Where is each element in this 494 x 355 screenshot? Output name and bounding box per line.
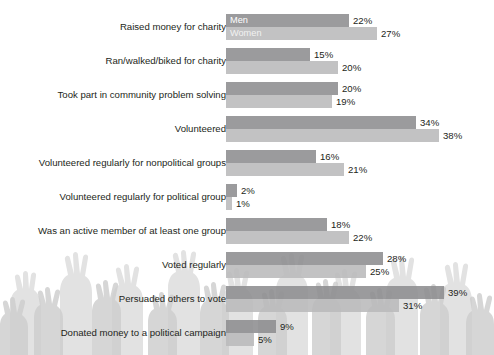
bar-women[interactable] <box>226 265 366 278</box>
bar-group-women: 21% <box>226 163 494 176</box>
bar-group-women: 20% <box>226 61 494 74</box>
value-label-men: 28% <box>383 252 406 265</box>
category-label: Persuaded others to vote <box>4 293 226 304</box>
category-label: Took part in community problem solving <box>4 89 226 100</box>
bar-group-men: Men 22% <box>226 14 494 27</box>
chart-rows: Raised money for charity Men 22% Women 2… <box>0 0 494 355</box>
value-label-women: 20% <box>338 61 361 74</box>
bar-group-women: 1% <box>226 197 494 210</box>
bar-women[interactable] <box>226 95 332 108</box>
value-label-women: 19% <box>332 95 355 108</box>
value-label-men: 22% <box>349 14 372 27</box>
value-label-women: 5% <box>254 333 272 346</box>
bar-group-men: 28% <box>226 252 494 265</box>
grouped-bar-chart: Raised money for charity Men 22% Women 2… <box>0 0 494 355</box>
category-label: Donated money to a political campaign <box>4 327 226 338</box>
bar-group-women: Women 27% <box>226 27 494 40</box>
value-label-men: 20% <box>338 82 361 95</box>
category-label: Volunteered <box>4 123 226 134</box>
bar-group-women: 25% <box>226 265 494 278</box>
legend-label-women: Women <box>230 27 262 40</box>
bar-women[interactable] <box>226 333 254 346</box>
bar-men[interactable] <box>226 218 327 231</box>
bar-group-women: 19% <box>226 95 494 108</box>
bar-group-men: 15% <box>226 48 494 61</box>
bar-group-men: 34% <box>226 116 494 129</box>
category-label: Volunteered regularly for political grou… <box>4 191 226 202</box>
value-label-women: 25% <box>366 265 389 278</box>
bar-group-men: 9% <box>226 320 494 333</box>
category-label: Was an active member of at least one gro… <box>4 225 226 236</box>
bar-men[interactable] <box>226 320 276 333</box>
bar-group-women: 22% <box>226 231 494 244</box>
category-label: Volunteered regularly for nonpolitical g… <box>4 157 226 168</box>
bar-group-women: 38% <box>226 129 494 142</box>
bar-men[interactable] <box>226 286 444 299</box>
value-label-women: 38% <box>439 129 462 142</box>
category-label: Voted regularly <box>4 259 226 270</box>
value-label-men: 18% <box>327 218 350 231</box>
bar-group-men: 2% <box>226 184 494 197</box>
bar-women[interactable] <box>226 299 399 312</box>
value-label-men: 15% <box>310 48 333 61</box>
bar-men[interactable] <box>226 184 237 197</box>
bar-men[interactable] <box>226 150 316 163</box>
value-label-women: 27% <box>377 27 400 40</box>
value-label-men: 9% <box>276 320 294 333</box>
value-label-women: 1% <box>232 197 250 210</box>
value-label-men: 16% <box>316 150 339 163</box>
bar-group-women: 31% <box>226 299 494 312</box>
category-label: Ran/walked/biked for charity <box>4 55 226 66</box>
bar-group-men: 16% <box>226 150 494 163</box>
category-label: Raised money for charity <box>4 21 226 32</box>
value-label-women: 22% <box>349 231 372 244</box>
bar-women[interactable] <box>226 61 338 74</box>
value-label-women: 31% <box>399 299 422 312</box>
bar-women[interactable] <box>226 163 344 176</box>
bar-group-men: 18% <box>226 218 494 231</box>
bar-women[interactable] <box>226 129 439 142</box>
value-label-men: 39% <box>444 286 467 299</box>
bar-men[interactable] <box>226 116 416 129</box>
bar-group-men: 39% <box>226 286 494 299</box>
value-label-men: 2% <box>237 184 255 197</box>
bar-men[interactable] <box>226 48 310 61</box>
bar-group-men: 20% <box>226 82 494 95</box>
bar-men[interactable]: Men <box>226 14 349 27</box>
bar-group-women: 5% <box>226 333 494 346</box>
bar-women[interactable]: Women <box>226 27 377 40</box>
bar-women[interactable] <box>226 231 349 244</box>
bar-men[interactable] <box>226 252 383 265</box>
value-label-women: 21% <box>344 163 367 176</box>
value-label-men: 34% <box>416 116 439 129</box>
legend-label-men: Men <box>230 14 248 27</box>
bar-men[interactable] <box>226 82 338 95</box>
